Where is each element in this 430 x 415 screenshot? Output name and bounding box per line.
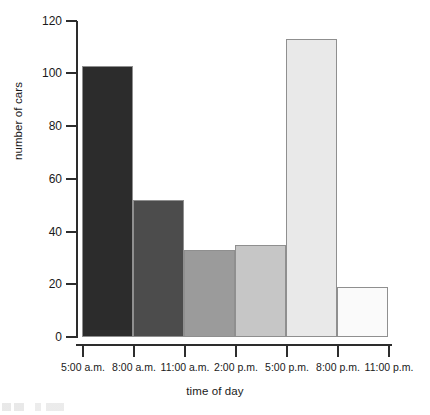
y-axis-title: number of cars [12, 66, 24, 176]
y-tick-mark [66, 20, 77, 22]
x-tick-label: 2:00 p.m. [214, 362, 258, 373]
x-axis-line [76, 344, 392, 346]
y-tick-mark [66, 283, 77, 285]
x-tick-label: 5:00 p.m. [265, 362, 309, 373]
y-tick-label: 120 [26, 15, 62, 27]
plot-area [82, 21, 388, 337]
x-tick-label: 11:00 p.m. [365, 362, 414, 373]
y-tick-label: 40 [26, 226, 62, 238]
y-tick-mark [66, 72, 77, 74]
x-tick-mark [184, 346, 186, 357]
bar [337, 287, 388, 337]
y-tick-label: 60 [26, 173, 62, 185]
y-tick-label: 20 [26, 278, 62, 290]
y-tick-mark [66, 178, 77, 180]
x-tick-mark [133, 346, 135, 357]
x-tick-mark [82, 346, 84, 357]
y-tick-mark [66, 125, 77, 127]
y-tick-label: 80 [26, 120, 62, 132]
bar [82, 66, 133, 337]
x-tick-label: 5:00 a.m. [61, 362, 105, 373]
y-tick-mark [66, 231, 77, 233]
scan-artifact [2, 403, 64, 411]
y-tick-mark [66, 336, 77, 338]
bar [286, 39, 337, 337]
x-tick-mark [286, 346, 288, 357]
x-axis-title: time of day [0, 385, 430, 397]
x-tick-label: 8:00 a.m. [112, 362, 156, 373]
x-tick-mark [388, 346, 390, 357]
x-tick-mark [337, 346, 339, 357]
x-tick-label: 11:00 a.m. [161, 362, 210, 373]
x-tick-mark [235, 346, 237, 357]
x-tick-label: 8:00 p.m. [316, 362, 360, 373]
y-tick-label: 100 [26, 67, 62, 79]
bar [133, 200, 184, 337]
bar [235, 245, 286, 337]
y-axis-tick-labels: 120 100 80 60 40 20 0 [26, 0, 62, 415]
bar [184, 250, 235, 337]
y-tick-label: 0 [26, 331, 62, 343]
bar-chart: number of cars 120 100 80 60 40 20 0 5:0… [0, 0, 430, 415]
